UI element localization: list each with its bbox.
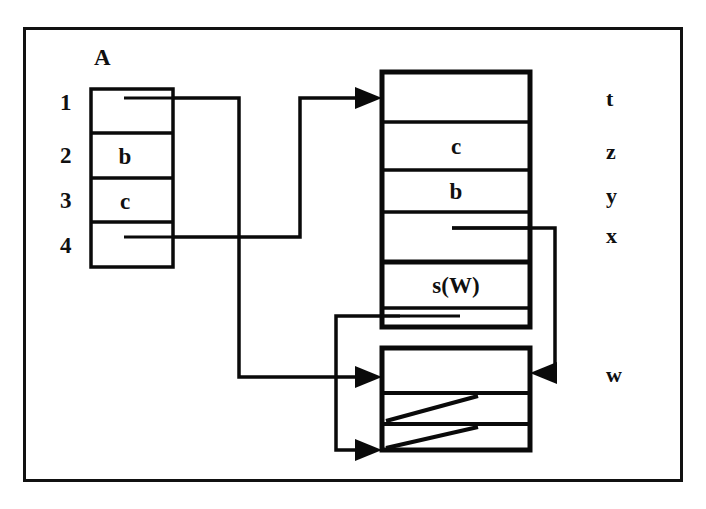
upper-record-cell-5-value: s(W) [432, 273, 479, 298]
array-a-name-label: A [94, 45, 111, 70]
variable-label-x: x [606, 223, 617, 248]
array-cell-3-value: c [120, 189, 130, 214]
lower-record-box [382, 348, 530, 450]
pointer-a1-arrowhead-icon [355, 366, 382, 388]
figure-canvas: A 1 2 3 4 b c c b s(W) [0, 0, 706, 509]
diagram-svg: A 1 2 3 4 b c c b s(W) [0, 0, 706, 509]
array-index-label-4: 4 [60, 233, 72, 258]
upper-record-cell-2-value: c [451, 134, 461, 159]
variable-label-t: t [606, 86, 614, 111]
variable-label-y: y [606, 183, 617, 208]
pointer-a4-to-upper-record [173, 98, 355, 237]
variable-label-w: w [606, 362, 622, 387]
pointer-upper4-arrowhead-icon [530, 362, 557, 384]
array-cell-2-value: b [119, 144, 132, 169]
variable-label-z: z [606, 139, 616, 164]
array-index-label-3: 3 [60, 188, 72, 213]
array-index-label-2: 2 [60, 143, 72, 168]
array-index-label-1: 1 [60, 90, 72, 115]
pointer-upper6-arrowhead-icon [355, 439, 382, 461]
pointer-a4-arrowhead-icon [355, 87, 382, 109]
upper-record-cell-3-value: b [450, 179, 463, 204]
